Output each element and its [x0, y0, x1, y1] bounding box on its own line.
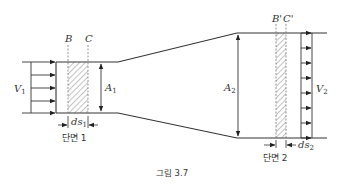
label-b: B [64, 33, 72, 44]
figure-caption: 그림 3.7 [156, 168, 188, 178]
ds2-label: ds2 [298, 139, 314, 152]
v1-label: V1 [14, 83, 26, 96]
section1-label: 단면 1 [62, 133, 87, 143]
label-c: C [85, 33, 93, 44]
velocity-profile-1 [22, 62, 55, 113]
pipe-top-wall [56, 33, 327, 62]
label-b-prime: B' [271, 13, 282, 24]
ds1-label: ds1 [71, 116, 87, 129]
a2-label: A2 [223, 82, 236, 95]
section2-label: 단면 2 [263, 153, 288, 163]
section2-hatched-element [276, 33, 286, 138]
label-c-prime: C' [283, 13, 293, 24]
section1-hatched-element [68, 62, 88, 113]
velocity-profile-2 [301, 33, 312, 138]
pipe-expansion-diagram: V1 B C A1 ds1 단면 1 A2 B' C' V2 [0, 0, 344, 187]
ds2-dimension [264, 140, 296, 148]
a1-label: A1 [104, 82, 117, 95]
v2-label: V2 [316, 83, 328, 96]
